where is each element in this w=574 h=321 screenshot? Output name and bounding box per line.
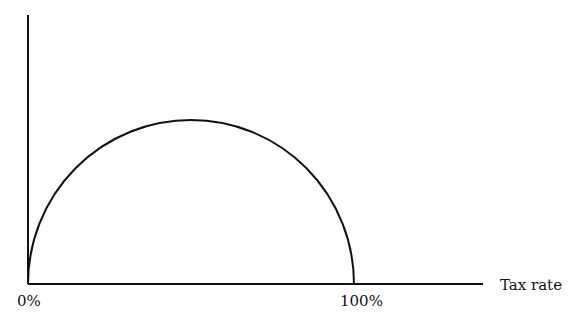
chart-canvas (0, 0, 574, 321)
x-axis-label: Tax rate (500, 276, 562, 294)
x-tick-label-100: 100% (340, 292, 383, 310)
laffer-curve (28, 120, 354, 284)
x-tick-label-0: 0% (17, 292, 41, 310)
